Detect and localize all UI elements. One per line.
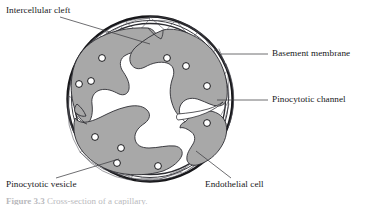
figure-caption: Figure 3.3 Cross-section of a capillary. xyxy=(6,196,147,205)
pinocytotic-vesicle xyxy=(76,81,83,88)
pinocytotic-vesicle xyxy=(118,145,125,152)
label-pinocytotic-channel: Pinocytotic channel xyxy=(272,95,346,104)
figure-caption-text: Cross-section of a capillary. xyxy=(47,196,147,205)
pinocytotic-vesicle xyxy=(92,134,99,141)
label-basement-membrane: Basement membrane xyxy=(272,49,350,58)
pinocytotic-vesicle xyxy=(183,63,190,70)
pinocytotic-vesicle xyxy=(204,120,211,127)
pinocytotic-vesicle xyxy=(204,83,211,90)
pinocytotic-vesicle xyxy=(99,55,106,62)
label-endothelial-cell: Endothelial cell xyxy=(205,180,264,189)
pinocytotic-vesicle xyxy=(155,163,162,170)
figure-caption-number: Figure 3.3 xyxy=(6,196,45,205)
capillary-cross-section-figure: Intercellular cleft Basement membrane Pi… xyxy=(0,0,371,205)
pinocytotic-vesicle xyxy=(88,78,95,85)
label-pinocytotic-vesicle: Pinocytotic vesicle xyxy=(6,180,77,189)
label-intercellular-cleft: Intercellular cleft xyxy=(6,6,70,15)
pinocytotic-vesicle xyxy=(164,55,171,62)
